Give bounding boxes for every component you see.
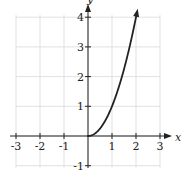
y-tick-label: -1 <box>73 160 84 171</box>
x-tick-label: 1 <box>109 140 116 153</box>
y-tick-label: 2 <box>77 71 84 84</box>
y-tick-label: 3 <box>77 41 84 54</box>
x-axis-arrow-icon <box>164 133 172 139</box>
x-axis-label: x <box>175 131 182 144</box>
x-tick-label: -2 <box>35 140 46 153</box>
curve-arrow-icon <box>133 9 139 17</box>
tick-labels: -3-2-1123-11234xy <box>11 0 182 171</box>
x-tick-label: -1 <box>59 140 70 153</box>
function-graph: -3-2-1123-11234xy <box>0 0 184 171</box>
x-tick-label: 2 <box>133 140 140 153</box>
x-tick-label: 3 <box>157 140 164 153</box>
x-tick-label: -3 <box>11 140 22 153</box>
y-tick-label: 1 <box>77 100 84 113</box>
y-tick-label: 4 <box>77 11 84 24</box>
curve-series <box>88 9 139 136</box>
y-axis-label: y <box>86 0 94 6</box>
